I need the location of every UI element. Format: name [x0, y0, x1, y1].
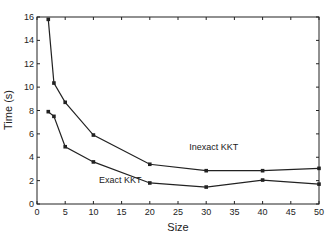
data-point-marker — [148, 181, 152, 185]
y-tick-label: 0 — [29, 199, 34, 209]
y-tick-label: 6 — [29, 129, 34, 139]
data-point-marker — [317, 167, 321, 171]
data-point-marker — [63, 145, 67, 149]
series-group: Inexact KKTExact KKT — [46, 18, 320, 189]
y-tick-label: 14 — [24, 35, 34, 45]
y-tick-label: 12 — [24, 59, 34, 69]
series-label: Inexact KKT — [189, 142, 239, 152]
line-chart: 05101520253035404550 0246810121416 Inexa… — [0, 0, 336, 241]
data-point-marker — [52, 81, 56, 85]
x-tick-label: 25 — [173, 207, 183, 217]
x-tick-label: 45 — [286, 207, 296, 217]
data-point-marker — [317, 182, 321, 186]
series-line — [48, 19, 319, 170]
x-tick-label: 30 — [201, 207, 211, 217]
x-axis-label: Size — [167, 221, 188, 233]
plot-frame — [37, 17, 319, 204]
x-tick-label: 40 — [258, 207, 268, 217]
data-point-marker — [148, 162, 152, 166]
y-axis-ticks: 0246810121416 — [24, 12, 319, 209]
x-tick-label: 5 — [63, 207, 68, 217]
y-tick-label: 2 — [29, 176, 34, 186]
y-tick-label: 8 — [29, 106, 34, 116]
y-tick-label: 10 — [24, 82, 34, 92]
series-label: Exact KKT — [99, 175, 142, 185]
y-tick-label: 4 — [29, 152, 34, 162]
data-point-marker — [63, 101, 67, 105]
series-line — [48, 112, 319, 187]
data-point-marker — [261, 169, 265, 173]
data-point-marker — [204, 185, 208, 189]
x-tick-label: 50 — [314, 207, 324, 217]
y-tick-label: 16 — [24, 12, 34, 22]
data-point-marker — [46, 110, 50, 114]
data-point-marker — [204, 169, 208, 173]
data-point-marker — [92, 160, 96, 164]
x-tick-label: 15 — [117, 207, 127, 217]
x-tick-label: 20 — [145, 207, 155, 217]
data-point-marker — [92, 133, 96, 137]
x-tick-label: 35 — [229, 207, 239, 217]
x-tick-label: 10 — [88, 207, 98, 217]
y-axis-label: Time (s) — [2, 90, 14, 130]
data-point-marker — [261, 178, 265, 182]
data-point-marker — [46, 18, 50, 22]
x-tick-label: 0 — [34, 207, 39, 217]
data-point-marker — [52, 115, 56, 119]
